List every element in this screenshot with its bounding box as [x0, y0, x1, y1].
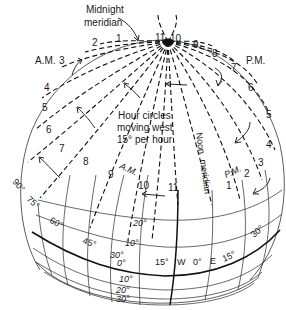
hour-label-pm-1: 1: [226, 180, 232, 191]
latitude-label-0: 0°: [117, 258, 126, 268]
hour-label-pm-8: 8: [212, 48, 218, 59]
hour-label-pm-2: 2: [244, 168, 250, 179]
longitude-label-0: 0°: [193, 257, 202, 267]
hour-label-am-1: 1: [116, 33, 122, 44]
hour-label-am-11: 11: [168, 182, 179, 193]
noon-label: Noon: [194, 132, 207, 155]
hour-label-am-10: 10: [138, 180, 150, 191]
latitude-label-10n: 10°: [125, 238, 139, 248]
meridian-label: meridian: [198, 159, 213, 195]
hour-label-am-3: 3: [59, 55, 65, 66]
longitude-label-w: W: [177, 257, 186, 267]
hour-label-pm-9: 9: [193, 39, 199, 50]
longitude-label-15w: 15°: [155, 257, 169, 267]
longitude-label-75w: 75°: [25, 194, 42, 211]
hour-label-am-6: 6: [46, 124, 52, 135]
hour-label-pm-6: 6: [248, 82, 254, 93]
longitude-label-e: E: [210, 256, 216, 266]
am-label: A.M.: [35, 55, 56, 66]
arrow-pm-mid: [236, 122, 250, 142]
arrow-equatorial: [143, 194, 165, 196]
latitude-label-10s: 10°: [119, 274, 133, 284]
hour-label-am-4: 4: [44, 82, 50, 93]
hour-label-pm-3: 3: [258, 157, 264, 168]
pm-inner-label: P.M.: [223, 163, 243, 179]
am-inner-label: A.M.: [117, 160, 139, 177]
hour-circles-label-line2: moving west: [117, 122, 173, 133]
annotation-labels: Midnight meridian A.M. P.M. Hour circles…: [10, 4, 272, 304]
pm-label: P.M.: [246, 55, 265, 66]
hour-circles-label-line1: Hour circles: [118, 110, 171, 121]
hour-label-am-8: 8: [83, 156, 89, 167]
hour-label-pm-5: 5: [266, 109, 272, 120]
celestial-globe-diagram: Midnight meridian A.M. P.M. Hour circles…: [0, 0, 286, 310]
hour-label-pm-11: 11: [155, 32, 166, 43]
latitude-label-30s: 30°: [116, 294, 130, 304]
latitude-label-20n: 20°: [132, 218, 147, 228]
longitude-label-45w: 45°: [81, 235, 98, 249]
hour-label-am-9: 9: [108, 169, 114, 180]
midnight-meridian-label-line1: Midnight: [86, 4, 124, 15]
hour-label-pm-10: 10: [170, 33, 182, 44]
hour-label-am-5: 5: [42, 102, 48, 113]
hour-circles-label-line3: 15° per hour: [117, 134, 173, 145]
hour-label-am-7: 7: [59, 143, 65, 154]
hour-label-pm-4: 4: [266, 139, 272, 150]
longitude-label-30e: 30°: [249, 223, 266, 240]
longitude-label-60w: 60°: [48, 215, 65, 231]
hour-label-pm-7: 7: [231, 62, 237, 73]
arrow-am-lower: [40, 158, 60, 178]
midnight-meridian-label-line2: meridian: [84, 17, 122, 28]
longitude-grid: [38, 170, 269, 305]
hour-label-am-2: 2: [92, 37, 98, 48]
arrow-am-upper: [125, 84, 140, 98]
longitude-label-90w: 90°: [10, 177, 27, 194]
